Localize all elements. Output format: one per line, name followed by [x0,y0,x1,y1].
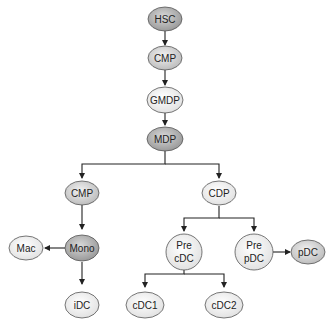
node-label-line1: Pre [176,240,192,251]
node-cmp-top: CMP [148,46,182,70]
node-label: Mac [17,243,36,254]
node-pre-cdc: Pre cDC [166,234,202,270]
node-hsc: HSC [148,7,182,31]
node-label: cDC2 [211,300,236,311]
edge-mdp-cdp [165,164,219,178]
node-cmp-left: CMP [65,181,99,205]
node-mac: Mac [9,236,43,260]
node-label: cDC1 [132,300,157,311]
node-label: CMP [71,188,94,199]
node-label: iDC [74,300,91,311]
node-label-line1: Pre [246,240,262,251]
edge-precdc-cdc1 [145,270,184,287]
edge-cdp-precdc [184,206,219,231]
edge-precdc-cdc2 [184,274,224,287]
node-label: CDP [208,188,229,199]
node-label: Mono [69,243,94,254]
node-mono: Mono [65,235,99,261]
node-gmdp: GMDP [147,87,183,113]
node-label-line2: cDC [174,253,193,264]
edge-mdp-cmp [82,150,165,178]
node-idc: iDC [65,292,99,318]
node-cdc2: cDC2 [205,292,243,318]
node-label: HSC [154,14,175,25]
node-pre-pdc: Pre pDC [235,234,273,270]
node-pdc: pDC [291,240,325,264]
node-label: CMP [154,53,177,64]
node-label: pDC [298,247,318,258]
node-cdp: CDP [202,181,236,205]
node-label-line2: pDC [244,253,264,264]
node-mdp: MDP [147,127,183,151]
node-label: MDP [154,134,177,145]
lineage-diagram: HSC CMP GMDP MDP CMP CDP Mono Mac iDC Pr… [0,0,331,326]
node-label: GMDP [150,95,180,106]
edge-cdp-prepdc [219,218,254,231]
node-cdc1: cDC1 [126,292,164,318]
